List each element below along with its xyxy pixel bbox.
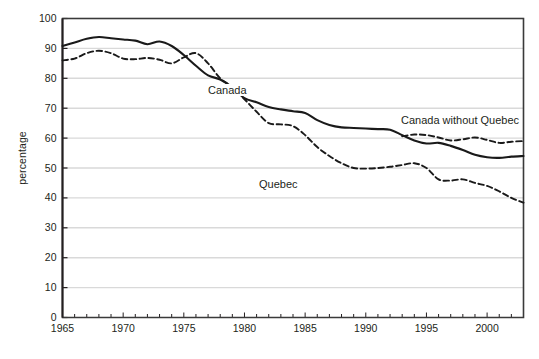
series-label-canada: Canada xyxy=(206,84,249,96)
x-tick-label: 1975 xyxy=(161,323,207,334)
y-tick-label: 70 xyxy=(27,103,57,114)
y-tick-label: 30 xyxy=(27,222,57,233)
x-tick-label: 1965 xyxy=(40,323,86,334)
y-axis-title: percentage xyxy=(16,113,28,203)
x-tick-label: 1985 xyxy=(282,323,328,334)
y-tick-label: 90 xyxy=(27,43,57,54)
y-tick-label: 100 xyxy=(27,13,57,24)
series-label-canada-without-quebec: Canada without Quebec xyxy=(399,114,521,126)
y-tick-label: 20 xyxy=(27,252,57,263)
series-label-quebec: Quebec xyxy=(257,178,300,190)
x-tick-label: 1995 xyxy=(403,323,449,334)
x-tick-label: 1980 xyxy=(221,323,267,334)
x-tick-label: 2000 xyxy=(464,323,510,334)
y-tick-label: 80 xyxy=(27,73,57,84)
y-tick-label: 60 xyxy=(27,133,57,144)
x-tick-label: 1990 xyxy=(343,323,389,334)
y-tick-label: 50 xyxy=(27,163,57,174)
figure: percentage 0102030405060708090100 196519… xyxy=(0,0,539,359)
y-tick-label: 10 xyxy=(27,282,57,293)
y-tick-label: 40 xyxy=(27,192,57,203)
x-tick-label: 1970 xyxy=(100,323,146,334)
